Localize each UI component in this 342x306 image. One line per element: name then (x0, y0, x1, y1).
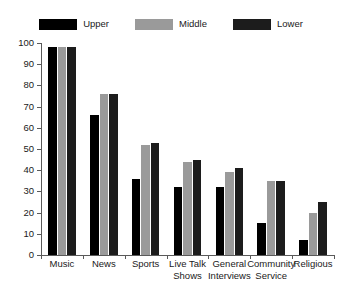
axes: 0102030405060708090100 (41, 43, 334, 255)
bars-layer (41, 43, 334, 255)
bar[interactable] (235, 168, 244, 255)
category-label: Sports (132, 258, 159, 270)
bar[interactable] (267, 181, 276, 255)
category-label: News (92, 258, 116, 270)
y-tick-label: 10 (23, 229, 34, 239)
y-tick-label: 0 (29, 250, 34, 260)
bar[interactable] (225, 172, 234, 255)
category-label: General Interviews (208, 258, 251, 281)
bar[interactable] (109, 94, 118, 255)
y-tick-label: 30 (23, 187, 34, 197)
bar[interactable] (90, 115, 99, 255)
category-labels: MusicNewsSportsLive Talk ShowsGeneral In… (41, 258, 334, 302)
bar[interactable] (193, 160, 202, 255)
x-tick-mark (334, 255, 335, 259)
bar[interactable] (132, 179, 141, 255)
bar[interactable] (141, 145, 150, 255)
y-tick-label: 50 (23, 144, 34, 154)
bar[interactable] (48, 47, 57, 255)
y-tick-label: 20 (23, 208, 34, 218)
bar[interactable] (276, 181, 285, 255)
bar[interactable] (309, 213, 318, 255)
y-tick-label: 90 (23, 59, 34, 69)
category-label: Live Talk Shows (169, 258, 206, 281)
bar-chart: UpperMiddleLower 0102030405060708090100 … (0, 0, 342, 306)
category-label: Community Service (247, 258, 295, 281)
bar[interactable] (318, 202, 327, 255)
bar[interactable] (216, 187, 225, 255)
x-axis-line (41, 255, 334, 256)
y-tick-label: 100 (18, 38, 34, 48)
bar[interactable] (183, 162, 192, 255)
category-label: Religious (294, 258, 333, 270)
bar[interactable] (257, 223, 266, 255)
bar[interactable] (100, 94, 109, 255)
y-tick-label: 40 (23, 165, 34, 175)
bar[interactable] (299, 240, 308, 255)
y-tick-label: 60 (23, 123, 34, 133)
category-label: Music (50, 258, 75, 270)
bar[interactable] (174, 187, 183, 255)
y-tick-label: 80 (23, 81, 34, 91)
bar[interactable] (151, 143, 160, 255)
bar[interactable] (58, 47, 67, 255)
plot-area: 0102030405060708090100 MusicNewsSportsLi… (0, 0, 342, 306)
y-tick-label: 70 (23, 102, 34, 112)
bar[interactable] (67, 47, 76, 255)
